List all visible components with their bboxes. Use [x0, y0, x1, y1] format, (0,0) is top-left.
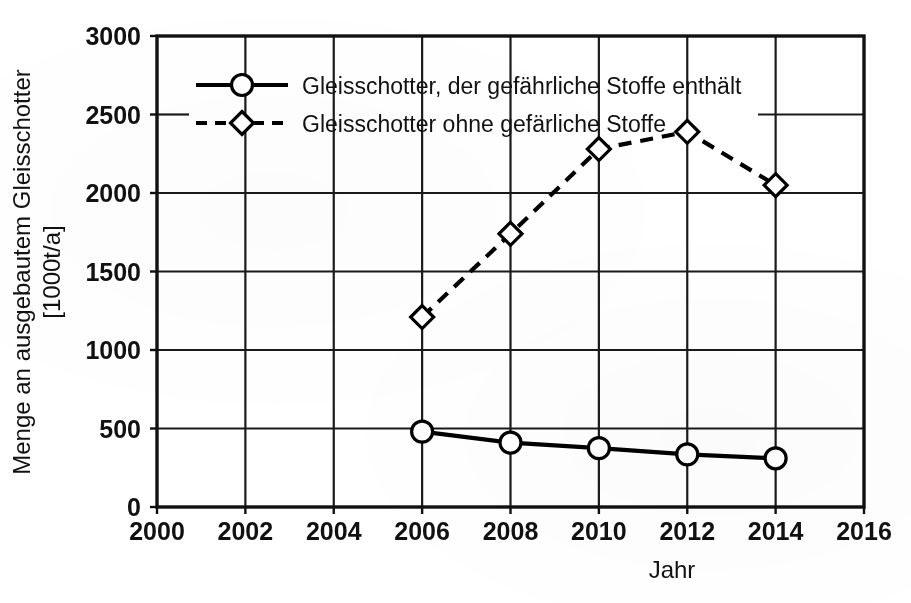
chart-figure: 200020022004200620082010201220142016 050… — [0, 0, 911, 603]
x-tick-label: 2010 — [571, 517, 627, 545]
legend-marker-sample — [232, 75, 253, 96]
data-point-marker — [412, 421, 433, 442]
y-tick-label: 3000 — [85, 22, 141, 50]
x-tick-label: 2002 — [218, 517, 274, 545]
x-axis-title: Jahr — [649, 556, 696, 583]
x-tick-label: 2004 — [306, 517, 362, 545]
y-tick-label: 0 — [127, 493, 141, 521]
y-tick-label: 2500 — [85, 101, 141, 129]
data-point-marker — [765, 448, 786, 469]
legend-label: Gleisschotter ohne gefärliche Stoffe — [302, 111, 666, 137]
y-axis-title-line2: [1000t/a] — [38, 225, 65, 318]
x-axis-tick-labels: 200020022004200620082010201220142016 — [129, 517, 892, 545]
y-tick-label: 500 — [99, 415, 141, 443]
x-tick-label: 2014 — [748, 517, 804, 545]
y-axis-title-line1: Menge an ausgebautem Gleisschotter — [8, 69, 35, 475]
y-tick-label: 2000 — [85, 179, 141, 207]
data-point-marker — [677, 444, 698, 465]
data-point-marker — [588, 438, 609, 459]
x-tick-label: 2012 — [659, 517, 715, 545]
x-tick-label: 2008 — [483, 517, 539, 545]
data-point-marker — [500, 432, 521, 453]
y-tick-label: 1000 — [85, 336, 141, 364]
x-tick-label: 2016 — [836, 517, 892, 545]
x-tick-label: 2000 — [129, 517, 185, 545]
y-tick-label: 1500 — [85, 258, 141, 286]
line-chart: 200020022004200620082010201220142016 050… — [0, 0, 911, 603]
x-tick-label: 2006 — [394, 517, 450, 545]
legend-label: Gleisschotter, der gefährliche Stoffe en… — [302, 73, 742, 99]
